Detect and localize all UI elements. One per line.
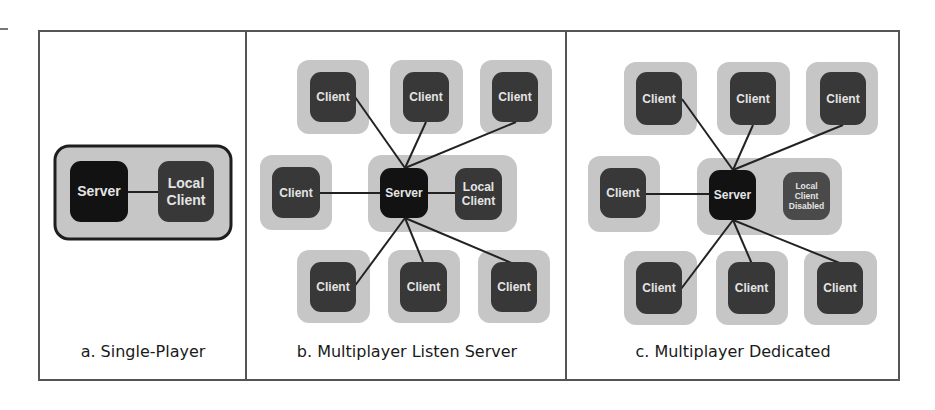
client-node: Client: [636, 262, 682, 314]
client-label: Client: [316, 90, 349, 104]
client-node: Client: [310, 72, 356, 122]
panel-c: ClientClientClientClientServerLocalClien…: [588, 62, 878, 325]
local-client-node: LocalClient: [455, 168, 502, 220]
client-node: Client: [492, 72, 538, 122]
client-node: Client: [600, 168, 646, 218]
server-label: Server: [714, 188, 752, 202]
client-node: Client: [730, 72, 776, 125]
local-client-node: LocalClient: [158, 161, 214, 222]
client-label: Client: [279, 186, 312, 200]
disabled-label: Client: [795, 191, 819, 201]
server-label: Server: [385, 186, 423, 200]
client-label: Client: [736, 92, 769, 106]
caption-dedicated: c. Multiplayer Dedicated: [568, 342, 898, 364]
client-label: Client: [642, 92, 675, 106]
server-node: Server: [380, 168, 428, 218]
client-node: Client: [728, 262, 775, 314]
local-client-label: Local: [168, 175, 205, 191]
server-label: Server: [77, 183, 121, 199]
client-label: Client: [316, 280, 349, 294]
server-node: Server: [70, 161, 128, 222]
client-label: Client: [823, 281, 856, 295]
client-label: Client: [735, 281, 768, 295]
caption-single-player: a. Single-Player: [40, 342, 246, 364]
disabled-node: LocalClientDisabled: [783, 172, 830, 220]
caption-listen-server: b. Multiplayer Listen Server: [248, 342, 566, 364]
client-node: Client: [636, 72, 682, 125]
local-client-label: Local: [463, 180, 494, 194]
client-label: Client: [497, 280, 530, 294]
client-node: Client: [491, 262, 537, 312]
local-client-label: Client: [462, 194, 495, 208]
disabled-label: Local: [795, 181, 817, 191]
panel-a: ServerLocalClient: [55, 146, 231, 239]
client-label: Client: [606, 186, 639, 200]
local-client-label: Client: [167, 192, 206, 208]
client-label: Client: [498, 90, 531, 104]
network-modes-figure: ServerLocalClientClientClientClientClien…: [0, 0, 935, 410]
client-node: Client: [817, 262, 863, 314]
client-label: Client: [826, 92, 859, 106]
disabled-label: Disabled: [789, 201, 824, 211]
client-label: Client: [409, 90, 442, 104]
client-node: Client: [403, 72, 449, 122]
client-node: Client: [310, 262, 356, 312]
client-label: Client: [407, 280, 440, 294]
client-node: Client: [272, 167, 320, 218]
panel-b: ClientClientClientClientServerLocalClien…: [260, 60, 552, 323]
server-node: Server: [709, 170, 756, 220]
client-node: Client: [400, 262, 447, 312]
client-label: Client: [642, 281, 675, 295]
client-node: Client: [820, 72, 866, 125]
